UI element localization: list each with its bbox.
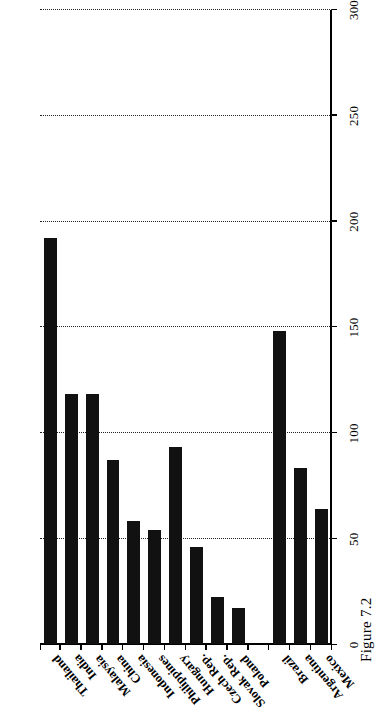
bar bbox=[65, 394, 78, 644]
value-tick-label: 200 bbox=[346, 212, 362, 232]
gridline bbox=[40, 538, 332, 539]
value-tick bbox=[332, 9, 337, 10]
bar bbox=[294, 468, 307, 644]
value-tick bbox=[332, 114, 337, 115]
value-tick-label: 250 bbox=[346, 106, 362, 126]
category-tick bbox=[185, 645, 186, 650]
category-tick bbox=[40, 645, 41, 650]
category-tick bbox=[122, 645, 123, 650]
category-tick bbox=[268, 645, 269, 650]
gridline bbox=[40, 115, 332, 116]
category-tick bbox=[247, 645, 248, 650]
bar bbox=[127, 521, 140, 644]
category-tick bbox=[164, 645, 165, 650]
value-tick bbox=[332, 432, 337, 433]
value-tick bbox=[332, 644, 337, 645]
gridline bbox=[40, 221, 332, 222]
category-tick bbox=[143, 645, 144, 650]
category-tick bbox=[101, 645, 102, 650]
bar bbox=[86, 394, 99, 644]
bar bbox=[107, 460, 120, 644]
bar bbox=[148, 530, 161, 644]
gridline bbox=[40, 9, 332, 10]
gridline bbox=[40, 432, 332, 433]
category-tick bbox=[80, 645, 81, 650]
category-tick bbox=[331, 645, 332, 650]
bar bbox=[315, 509, 328, 644]
bar bbox=[44, 238, 57, 644]
category-tick bbox=[289, 645, 290, 650]
value-tick-label: 300 bbox=[346, 0, 362, 20]
value-tick bbox=[332, 220, 337, 221]
gridline bbox=[40, 327, 332, 328]
bar bbox=[190, 547, 203, 644]
category-tick bbox=[205, 645, 206, 650]
value-tick-label: 100 bbox=[346, 423, 362, 443]
plot-area: 050100150200250300 ThailandIndiaMalaysia… bbox=[40, 10, 332, 645]
figure-caption: Figure 7.2 bbox=[358, 597, 375, 662]
bar bbox=[273, 331, 286, 644]
category-tick bbox=[226, 645, 227, 650]
value-tick bbox=[332, 538, 337, 539]
category-tick bbox=[310, 645, 311, 650]
bar bbox=[211, 597, 224, 644]
category-tick bbox=[59, 645, 60, 650]
category-axis-line bbox=[330, 10, 332, 645]
value-tick-label: 50 bbox=[346, 532, 362, 545]
value-tick-label: 150 bbox=[346, 317, 362, 337]
bar bbox=[169, 447, 182, 644]
bar bbox=[232, 608, 245, 644]
value-tick bbox=[332, 326, 337, 327]
